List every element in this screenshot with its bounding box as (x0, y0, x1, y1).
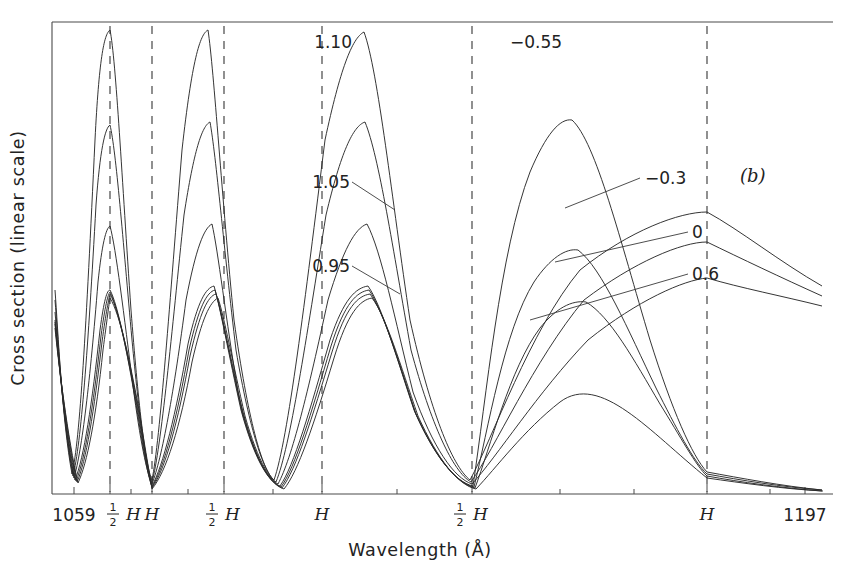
x-tick-label-h-3: H (699, 504, 716, 524)
svg-text:2: 2 (457, 516, 464, 529)
figure-panel-b: 1.10 1.05 0.95 −0.55 −0.3 0 0.6 (b) 1059… (0, 0, 843, 567)
curve-label-0: 0 (692, 222, 703, 242)
x-tick-label-1059: 1059 (52, 505, 95, 525)
leader-1-05 (352, 182, 395, 210)
x-axis-ticks (74, 484, 805, 494)
plot-canvas: 1.10 1.05 0.95 −0.55 −0.3 0 0.6 (b) 1059… (0, 0, 843, 567)
x-tick-label-half-h-1: 1 2 H (107, 501, 142, 529)
x-tick-label-h-2: H (314, 504, 331, 524)
curve-0-6 (55, 298, 823, 491)
svg-text:1: 1 (110, 501, 117, 514)
curve-label-minus-0-55: −0.55 (510, 32, 562, 52)
svg-text:H: H (472, 504, 489, 524)
svg-text:2: 2 (209, 516, 216, 529)
x-axis-title: Wavelength (Å) (348, 539, 491, 560)
x-tick-label-h-1: H (144, 504, 161, 524)
leader-0 (555, 232, 688, 262)
panel-label: (b) (740, 165, 766, 186)
curve-label-1-10: 1.10 (314, 32, 352, 52)
x-tick-label-1197: 1197 (783, 505, 826, 525)
svg-text:1: 1 (457, 501, 464, 514)
curve-label-minus-0-3: −0.3 (645, 168, 686, 188)
svg-text:H: H (125, 504, 142, 524)
svg-text:2: 2 (110, 516, 117, 529)
x-tick-labels: 1059 1 2 H H 1 2 H H 1 2 H H 1197 (52, 501, 826, 529)
curve-label-1-05: 1.05 (312, 172, 350, 192)
curve-label-0-95: 0.95 (312, 256, 350, 276)
leader-0-6 (530, 274, 688, 320)
curve-group-broad (55, 120, 823, 491)
curve-label-0-6: 0.6 (692, 264, 719, 284)
y-axis-title: Cross section (linear scale) (8, 130, 28, 386)
axes-frame (52, 22, 833, 494)
x-tick-label-half-h-3: 1 2 H (454, 501, 489, 529)
svg-text:1: 1 (209, 501, 216, 514)
node-dashed-lines (110, 26, 707, 492)
x-tick-label-half-h-2: 1 2 H (206, 501, 241, 529)
svg-text:H: H (224, 504, 241, 524)
